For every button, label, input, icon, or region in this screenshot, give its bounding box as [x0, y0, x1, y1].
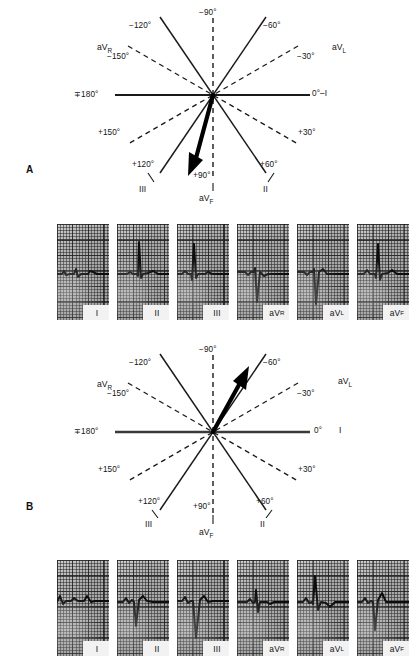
ecg-strip-lead-i-b: I	[57, 560, 109, 656]
panel-label-b: B	[26, 501, 33, 512]
ecg-strip-row-a: I II III aVR	[57, 224, 413, 320]
strip-tag-lead-i-a: I	[83, 305, 109, 320]
lead-label-ii-b: II	[260, 519, 265, 529]
lead-label-ii-a: II	[263, 184, 268, 194]
strip-tag-lead-avr-a: aVR	[263, 305, 289, 320]
strip-tag-lead-ii-a: II	[143, 305, 169, 320]
ecg-strip-lead-ii-b: II	[117, 560, 169, 656]
strip-tag-lead-ii-b: II	[143, 641, 169, 656]
strip-tag-sub-a5: L	[341, 309, 345, 316]
lead-label-avf-sub-a: F	[210, 198, 214, 205]
ecg-strip-lead-avl-a: aVL	[297, 224, 349, 320]
ecg-strip-lead-avl-b: aVL	[297, 560, 349, 656]
tick-marks-b	[60, 345, 380, 545]
strip-tag-text-a1: I	[96, 308, 99, 318]
hexaxial-diagram-a: −90° −120° −60° aVR −150° −30° aVL ∓180°…	[60, 8, 380, 208]
strip-tag-lead-avf-a: aVF	[383, 305, 409, 320]
lead-label-avf-b: aVF	[199, 527, 213, 539]
hexaxial-diagram-b: −90° −120° −60° aVR −150° −30° aVL ∓180°…	[60, 345, 380, 545]
strip-tag-lead-avl-a: aVL	[323, 305, 349, 320]
lead-label-avf-text-b: aV	[199, 527, 210, 537]
lead-label-avf-sub-b: F	[210, 532, 214, 539]
strip-tag-lead-avf-b: aVF	[383, 641, 409, 656]
ecg-strip-lead-avr-a: aVR	[237, 224, 289, 320]
strip-tag-text-b2: II	[154, 644, 159, 654]
strip-tag-text-b1: I	[96, 644, 99, 654]
strip-tag-text-b5: aV	[330, 644, 341, 654]
ecg-strip-lead-avf-b: aVF	[357, 560, 409, 656]
strip-tag-sub-a4: R	[280, 309, 285, 316]
ecg-strip-lead-iii-a: III	[177, 224, 229, 320]
ecg-strip-lead-ii-a: II	[117, 224, 169, 320]
strip-tag-text-a6: aV	[390, 308, 401, 318]
strip-tag-lead-iii-a: III	[203, 305, 229, 320]
strip-tag-lead-avl-b: aVL	[323, 641, 349, 656]
strip-tag-sub-b5: L	[341, 645, 345, 652]
strip-tag-lead-iii-b: III	[203, 641, 229, 656]
strip-tag-text-a2: II	[154, 308, 159, 318]
strip-tag-lead-avr-b: aVR	[263, 641, 289, 656]
panel-label-a: A	[26, 164, 33, 175]
strip-tag-text-a3: III	[213, 308, 221, 318]
strip-tag-text-a4: aV	[269, 308, 280, 318]
ecg-axis-figure: A −90° −120° −60° aVR −150° −30	[0, 0, 419, 670]
ecg-strip-lead-i-a: I	[57, 224, 109, 320]
strip-tag-sub-b4: R	[280, 645, 285, 652]
strip-tag-sub-b6: F	[400, 645, 404, 652]
ecg-strip-lead-avf-a: aVF	[357, 224, 409, 320]
ecg-strip-lead-iii-b: III	[177, 560, 229, 656]
lead-label-avf-a: aVF	[199, 193, 213, 205]
ecg-strip-row-b: I II III aVR	[57, 560, 413, 656]
strip-tag-text-a5: aV	[330, 308, 341, 318]
lead-label-avf-text-a: aV	[199, 193, 210, 203]
strip-tag-text-b4: aV	[269, 644, 280, 654]
strip-tag-sub-a6: F	[400, 309, 404, 316]
strip-tag-text-b6: aV	[390, 644, 401, 654]
strip-tag-text-b3: III	[213, 644, 221, 654]
tick-marks-a	[60, 8, 380, 208]
lead-label-iii-a: III	[139, 184, 146, 194]
ecg-strip-lead-avr-b: aVR	[237, 560, 289, 656]
strip-tag-lead-i-b: I	[83, 641, 109, 656]
lead-label-iii-b: III	[145, 519, 152, 529]
